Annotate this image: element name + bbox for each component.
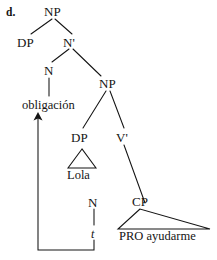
node-dp-spec: DP (17, 36, 34, 49)
branch-nbar-to-n (52, 49, 69, 62)
terminal-trace: t (91, 228, 94, 240)
node-cp: CP (132, 195, 148, 208)
terminal-obligacion: obligación (22, 99, 75, 112)
node-dp-lola: DP (71, 131, 88, 144)
branch-nbar-to-np-lower (73, 49, 101, 76)
lola-triangle (68, 149, 96, 168)
cp-triangle (118, 209, 210, 229)
terminal-pro-ayudarme: PRO ayudarme (119, 230, 196, 243)
node-np-root: NP (44, 5, 61, 18)
node-nbar: N' (63, 36, 75, 49)
node-vbar: V' (116, 131, 128, 144)
branch-np-to-dp (31, 19, 52, 34)
node-np-lower: NP (99, 77, 116, 90)
branch-np-to-nbar (55, 19, 72, 34)
node-n-trace-head: N (88, 196, 97, 209)
branch-np-lower-to-dp-lola (83, 91, 106, 128)
example-label: d. (6, 6, 15, 18)
terminal-lola: Lola (67, 169, 90, 182)
node-n-head: N (44, 64, 53, 77)
syntax-tree-figure: d. NP DP N' N NP obligación DP Lola V' C… (0, 0, 217, 260)
branch-np-lower-to-vbar (110, 91, 124, 128)
